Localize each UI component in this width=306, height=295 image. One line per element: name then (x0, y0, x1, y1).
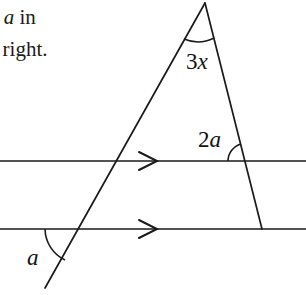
lower-angle-arc (45, 229, 65, 260)
angle-label-upper-coefficient: 2 (198, 127, 210, 152)
angle-label-upper-variable: a (210, 127, 222, 152)
diagram-canvas (0, 0, 306, 295)
angle-label-apex-variable: x (198, 49, 208, 74)
angle-label-apex: 3x (186, 50, 208, 73)
angle-label-upper: 2a (198, 128, 221, 151)
apex-angle-arc (184, 38, 214, 42)
angle-label-lower-variable: a (27, 245, 39, 270)
geometry-figure: – a in e right. 3x 2a a (0, 0, 306, 295)
transversal-left-line (45, 3, 205, 288)
angle-label-lower: a (27, 246, 39, 269)
transversal-right-line (205, 3, 262, 229)
angle-label-apex-coefficient: 3 (186, 49, 198, 74)
upper-angle-arc (228, 144, 241, 161)
